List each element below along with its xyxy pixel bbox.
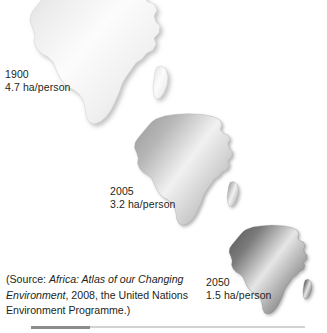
source-rest: , 2008, the United Nations [65, 289, 188, 301]
map-label-2050: 2050 1.5 ha/person [206, 276, 272, 302]
label-year-1900: 1900 [5, 68, 71, 81]
africa-map-2050 [228, 224, 318, 325]
bottom-rule [31, 326, 305, 329]
label-rate-1900: 4.7 ha/person [5, 81, 71, 94]
madagascar-shape-2005 [227, 182, 238, 207]
map-label-2005: 2005 3.2 ha/person [110, 185, 176, 211]
label-year-2005: 2005 [110, 185, 176, 198]
map-label-1900: 1900 4.7 ha/person [5, 68, 71, 94]
africa-land-per-person-figure: 1900 4.7 ha/person 2005 3.2 ha/person 20… [0, 0, 327, 333]
africa-map-2005 [133, 112, 246, 239]
source-line3: Environment Programme.) [6, 304, 130, 316]
bottom-rule-light-segment [90, 326, 305, 328]
source-prefix: (Source: [6, 273, 49, 285]
madagascar-shape-1900 [153, 66, 168, 99]
source-work-title-part2: Environment [6, 289, 65, 301]
label-rate-2050: 1.5 ha/person [206, 289, 272, 302]
source-caption: (Source: Africa: Atlas of our Changing E… [6, 272, 204, 319]
madagascar-shape-2050 [303, 279, 312, 299]
label-rate-2005: 3.2 ha/person [110, 198, 176, 211]
africa-mainland-shape-1900 [30, 0, 160, 124]
bottom-rule-dark-segment [31, 326, 90, 329]
source-work-title-part1: Africa: Atlas of our Changing [49, 273, 183, 285]
label-year-2050: 2050 [206, 276, 272, 289]
